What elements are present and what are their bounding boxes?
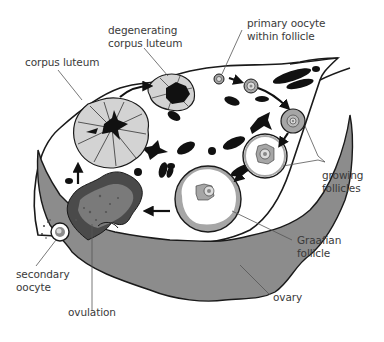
label-primary-oocyte-within-follicle: primary oocyte within follicle [247,17,325,43]
growing-follicle-small [244,79,258,93]
corpus-luteum [74,98,149,168]
growing-follicle-medium [281,109,305,133]
label-growing-follicles: growing follicles [322,169,363,195]
label-secondary-oocyte: secondary oocyte [16,268,70,294]
label-degenerating-corpus-luteum: degenerating corpus luteum [108,24,182,50]
graafian-follicle [175,166,241,232]
primary-follicle [214,74,224,84]
label-ovulation: ovulation [68,306,116,319]
label-corpus-luteum: corpus luteum [25,56,99,69]
ovarian-cycle-diagram: degenerating corpus luteum corpus luteum… [0,0,384,342]
label-ovary: ovary [273,291,302,304]
label-graafian-follicle: Graafian follicle [297,234,341,260]
growing-follicle-large [243,134,287,178]
